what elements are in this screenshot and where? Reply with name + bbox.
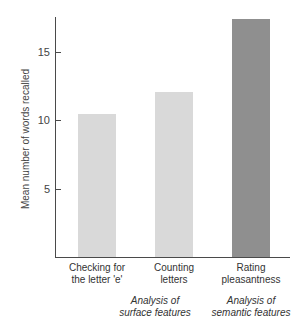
category-label-line: letters [134, 274, 214, 286]
x-axis [55, 257, 290, 258]
category-label-line: the letter 'e' [57, 274, 137, 286]
y-axis [55, 17, 56, 258]
y-tick-5 [55, 189, 61, 190]
group-label-line: Analysis of [105, 295, 205, 307]
bar-rating-pleasantness [232, 19, 270, 257]
bar-counting-letters [155, 92, 193, 257]
category-label-line: Checking for [57, 262, 137, 274]
category-label-counting: Counting letters [134, 262, 214, 286]
y-tick-15 [55, 52, 61, 53]
category-label-line: Counting [134, 262, 214, 274]
group-label-line: surface features [105, 307, 205, 319]
y-tick-label-5: 5 [10, 183, 50, 195]
y-tick-10 [55, 120, 61, 121]
group-label-semantic: Analysis of semantic features [201, 295, 301, 319]
group-label-line: Analysis of [201, 295, 301, 307]
y-tick-label-15: 15 [10, 46, 50, 58]
category-label-line: pleasantness [211, 274, 291, 286]
category-label-checking: Checking for the letter 'e' [57, 262, 137, 286]
group-label-surface: Analysis of surface features [105, 295, 205, 319]
category-label-line: Rating [211, 262, 291, 274]
group-label-line: semantic features [201, 307, 301, 319]
bar-checking-letter-e [78, 114, 116, 257]
y-tick-label-10: 10 [10, 114, 50, 126]
category-label-rating: Rating pleasantness [211, 262, 291, 286]
